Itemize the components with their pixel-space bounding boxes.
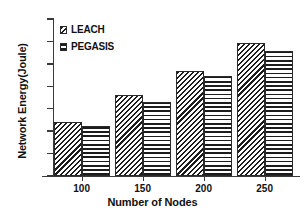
legend-item-pegasis: PEGASIS	[60, 39, 114, 54]
x-axis-title: Number of Nodes	[0, 196, 305, 208]
legend: LEACH PEGASIS	[60, 22, 114, 56]
bar-leach-150	[115, 95, 143, 176]
legend-label-pegasis: PEGASIS	[71, 41, 114, 52]
x-tick-label: 150	[123, 183, 163, 194]
bar-pegasis-200	[204, 76, 232, 176]
bar-leach-250	[237, 43, 265, 176]
x-tick-label: 100	[62, 183, 102, 194]
legend-item-leach: LEACH	[60, 22, 114, 37]
bar-pegasis-150	[143, 102, 171, 176]
bar-pegasis-250	[265, 51, 293, 176]
bar-leach-100	[54, 122, 82, 176]
y-axis-title: Network Energy(Joule)	[16, 21, 28, 181]
x-tick-mark	[82, 176, 83, 181]
x-tick-mark	[204, 176, 205, 181]
x-tick-mark	[265, 176, 266, 181]
x-tick-label: 200	[184, 183, 224, 194]
x-tick-mark	[143, 176, 144, 181]
bar-chart: Network Energy(Joule) 010203040506070 10…	[0, 0, 305, 212]
bar-pegasis-100	[82, 126, 110, 176]
x-tick-label: 250	[245, 183, 285, 194]
legend-swatch-pegasis-icon	[60, 43, 67, 51]
bar-leach-200	[176, 71, 204, 176]
legend-swatch-leach-icon	[60, 26, 67, 34]
legend-label-leach: LEACH	[71, 24, 104, 35]
